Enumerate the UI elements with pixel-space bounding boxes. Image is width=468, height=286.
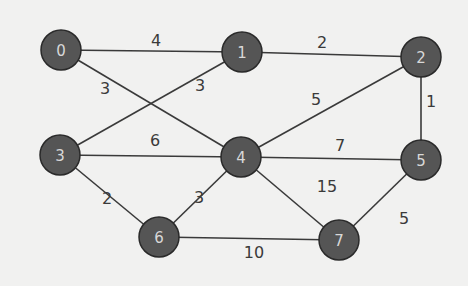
node-7: 7 — [319, 220, 359, 260]
node-label: 0 — [56, 42, 66, 60]
edge-weight-6-7: 10 — [244, 243, 264, 262]
edge-weight-2-4: 5 — [311, 90, 321, 109]
edge-0-1 — [61, 50, 242, 52]
edge-weight-4-7: 15 — [317, 177, 337, 196]
node-1: 1 — [222, 32, 262, 72]
edge-weight-1-2: 2 — [317, 33, 327, 52]
edge-4-5 — [241, 157, 421, 160]
node-2: 2 — [401, 37, 441, 77]
edge-6-7 — [159, 237, 339, 240]
edge-2-4 — [241, 57, 421, 157]
edge-weight-1-3: 3 — [195, 76, 205, 95]
node-6: 6 — [139, 217, 179, 257]
node-label: 4 — [236, 149, 246, 167]
node-label: 5 — [416, 152, 426, 170]
edge-weight-0-1: 4 — [151, 31, 161, 50]
node-5: 5 — [401, 140, 441, 180]
edge-weight-4-6: 3 — [194, 188, 204, 207]
node-label: 6 — [154, 229, 164, 247]
node-3: 3 — [40, 135, 80, 175]
edge-weight-5-7: 5 — [399, 209, 409, 228]
weighted-graph-diagram: 432351672315105 01234567 — [0, 0, 468, 286]
edge-3-4 — [60, 155, 241, 157]
edge-weight-2-5: 1 — [426, 92, 436, 111]
nodes-layer: 01234567 — [40, 30, 441, 260]
edge-weight-4-5: 7 — [335, 136, 345, 155]
edge-weight-3-4: 6 — [150, 131, 160, 150]
node-4: 4 — [221, 137, 261, 177]
node-0: 0 — [41, 30, 81, 70]
edge-1-2 — [242, 52, 421, 57]
node-label: 7 — [334, 232, 344, 250]
node-label: 2 — [416, 49, 426, 67]
graph-canvas: 432351672315105 01234567 — [0, 0, 468, 286]
edge-weight-0-4: 3 — [100, 79, 110, 98]
node-label: 1 — [237, 44, 247, 62]
node-label: 3 — [55, 147, 65, 165]
edge-weight-3-6: 2 — [102, 189, 112, 208]
